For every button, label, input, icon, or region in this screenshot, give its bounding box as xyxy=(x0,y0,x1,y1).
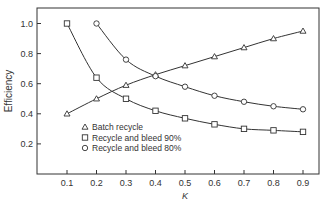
data-point-circle-icon xyxy=(182,84,187,89)
data-point-square-icon xyxy=(64,21,69,26)
x-tick-label: 0.3 xyxy=(120,178,133,188)
y-tick-label: 1.0 xyxy=(20,19,33,29)
data-point-triangle-icon xyxy=(300,28,306,33)
series-line xyxy=(67,31,303,114)
x-tick-label: 0.4 xyxy=(149,178,162,188)
y-tick-label: 0.2 xyxy=(20,139,33,149)
data-point-circle-icon xyxy=(212,93,217,98)
series-group xyxy=(64,21,306,135)
data-point-square-icon xyxy=(153,108,158,113)
data-point-circle-icon xyxy=(94,21,99,26)
data-point-circle-icon xyxy=(241,99,246,104)
x-tick-label: 0.9 xyxy=(297,178,310,188)
legend-label: Recycle and bleed 80% xyxy=(92,143,182,153)
y-axis: 0.20.40.60.81.0 xyxy=(20,19,41,149)
legend-label: Batch recycle xyxy=(92,122,143,132)
data-point-triangle-icon xyxy=(64,111,70,116)
x-tick-label: 0.7 xyxy=(238,178,251,188)
data-point-square-icon xyxy=(94,75,99,80)
data-point-square-icon xyxy=(182,116,187,121)
y-tick-label: 0.8 xyxy=(20,49,33,59)
data-point-square-icon xyxy=(212,122,217,127)
series-0 xyxy=(64,28,306,116)
efficiency-chart: 0.20.40.60.81.0 0.10.20.30.40.50.60.70.8… xyxy=(0,0,328,203)
series-1 xyxy=(64,21,305,135)
data-point-square-icon xyxy=(241,126,246,131)
x-tick-label: 0.1 xyxy=(61,178,74,188)
data-point-square-icon xyxy=(271,128,276,133)
x-tick-label: 0.2 xyxy=(90,178,103,188)
data-point-square-icon xyxy=(300,129,305,134)
legend-label: Recycle and bleed 90% xyxy=(92,133,182,143)
x-axis-label: K xyxy=(182,191,189,201)
x-tick-label: 0.6 xyxy=(208,178,221,188)
legend-triangle-icon xyxy=(82,124,88,129)
x-tick-label: 0.8 xyxy=(267,178,280,188)
legend-circle-icon xyxy=(82,145,87,150)
y-tick-label: 0.6 xyxy=(20,79,33,89)
x-axis: 0.10.20.30.40.50.60.70.80.9 xyxy=(61,170,310,188)
x-tick-label: 0.5 xyxy=(179,178,192,188)
data-point-circle-icon xyxy=(300,107,305,112)
legend: Batch recycleRecycle and bleed 90%Recycl… xyxy=(82,122,182,153)
data-point-triangle-icon xyxy=(94,96,100,101)
legend-square-icon xyxy=(82,135,87,140)
data-point-circle-icon xyxy=(123,57,128,62)
y-axis-label: Efficiency xyxy=(3,70,14,113)
y-tick-label: 0.4 xyxy=(20,109,33,119)
data-point-circle-icon xyxy=(271,104,276,109)
data-point-circle-icon xyxy=(153,73,158,78)
data-point-square-icon xyxy=(123,96,128,101)
